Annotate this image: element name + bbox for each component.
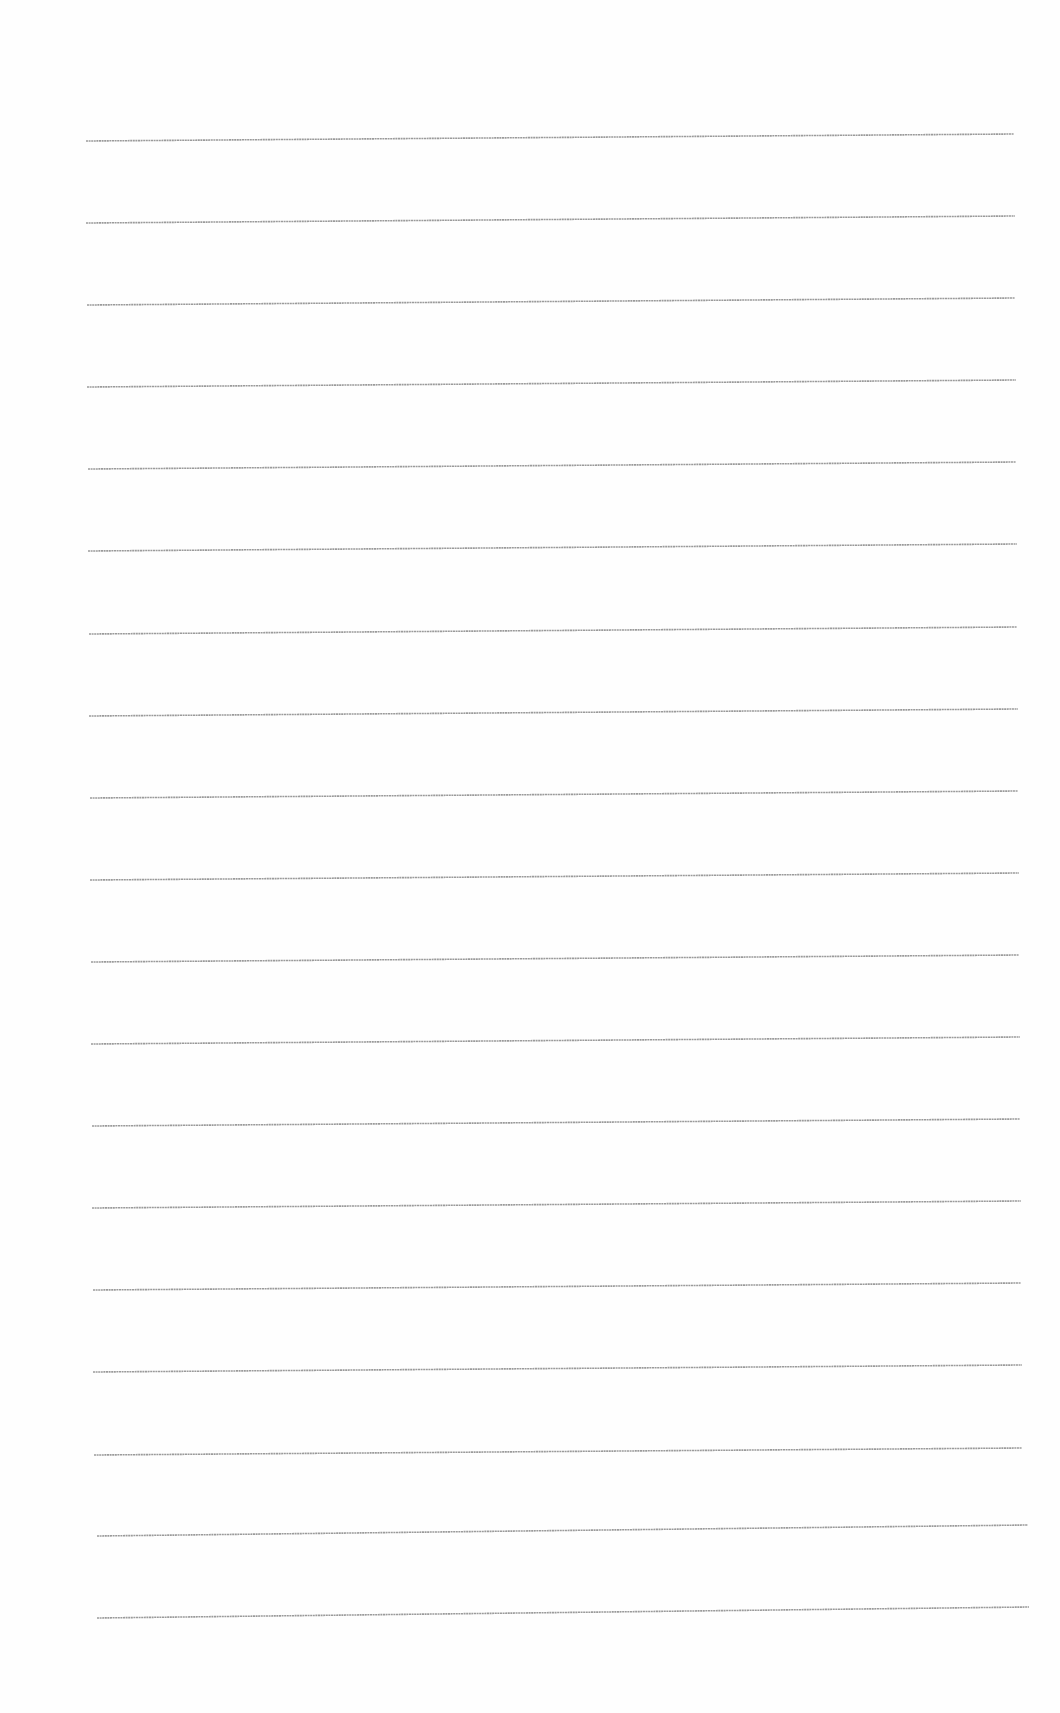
ruled-line-7	[89, 627, 1017, 634]
ruled-line-17	[94, 1448, 1022, 1455]
ruled-line-3	[87, 298, 1015, 305]
ruled-line-4	[87, 380, 1016, 387]
ruled-line-12	[91, 1037, 1020, 1044]
ruled-line-14	[92, 1201, 1021, 1208]
ruled-line-8	[89, 709, 1018, 716]
ruled-line-9	[90, 791, 1018, 798]
ruled-paper-sheet	[0, 0, 1060, 1713]
ruled-line-5	[88, 462, 1016, 469]
ruled-line-1	[86, 134, 1014, 141]
ruled-line-11	[91, 955, 1019, 962]
ruled-line-13	[92, 1119, 1020, 1126]
ruled-lines	[0, 0, 1060, 1713]
ruled-line-10	[90, 873, 1019, 880]
ruled-line-6	[88, 544, 1017, 551]
ruled-line-16	[93, 1365, 1022, 1372]
ruled-line-18	[97, 1525, 1028, 1536]
ruled-line-2	[86, 216, 1015, 223]
ruled-line-19	[97, 1607, 1029, 1618]
ruled-line-15	[93, 1283, 1021, 1290]
